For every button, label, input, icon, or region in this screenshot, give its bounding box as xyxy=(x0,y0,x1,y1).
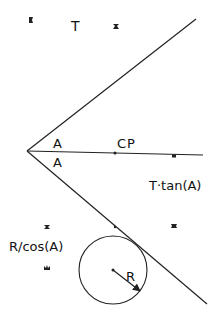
label-radius: R xyxy=(126,269,135,284)
lower-line-dot xyxy=(114,226,116,228)
label-offset: T·tan(A) xyxy=(148,178,201,193)
label-angle-lower: A xyxy=(53,155,62,170)
label-t: T xyxy=(70,18,80,34)
marker-icon xyxy=(29,17,177,270)
label-angle-upper: A xyxy=(53,136,62,151)
label-distance: R/cos(A) xyxy=(9,239,63,254)
label-cp: CP xyxy=(117,136,136,151)
bisector-dot xyxy=(172,155,176,158)
upper-edge-line xyxy=(27,19,196,151)
cp-point xyxy=(114,152,117,155)
lower-edge-line xyxy=(27,151,207,304)
geometry-diagram: T A A CP T·tan(A) R/cos(A) R xyxy=(0,0,224,324)
